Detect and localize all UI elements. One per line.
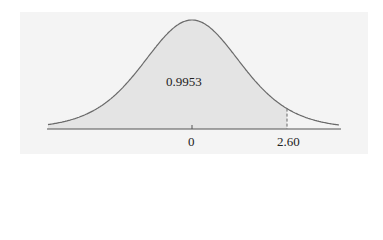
tick-label-cutoff: 2.60 bbox=[277, 135, 300, 148]
tick-label-zero: 0 bbox=[188, 135, 195, 148]
area-label: 0.9953 bbox=[166, 75, 202, 88]
